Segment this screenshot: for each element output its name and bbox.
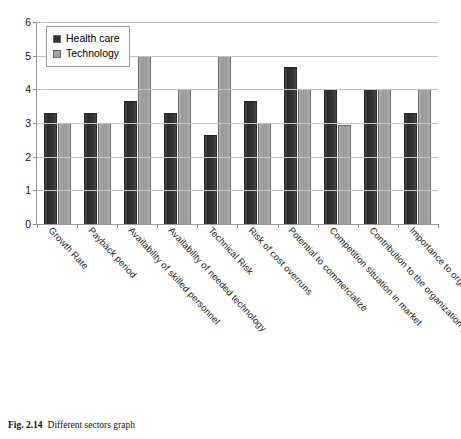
bar-technology [218, 56, 231, 224]
legend-swatch-health-care-icon [53, 35, 61, 43]
bar-health-care [404, 113, 417, 224]
chart-plot-wrapper: 0123456 Health care Technology [0, 0, 461, 240]
x-axis-label: Potential to commercialize [287, 226, 370, 314]
y-tick-mark [33, 89, 37, 90]
bar-health-care [124, 101, 137, 224]
y-tick-mark [33, 224, 37, 225]
bar-health-care [164, 113, 177, 224]
y-tick-label: 6 [25, 17, 31, 28]
figure-caption-text: Different sectors graph [48, 420, 135, 430]
bar-health-care [244, 101, 257, 224]
legend-label-technology: Technology [66, 48, 119, 59]
y-tick-mark [33, 56, 37, 57]
figure-number: Fig. 2.14 [8, 420, 43, 430]
bar-technology [338, 125, 351, 224]
y-gridline [37, 123, 438, 124]
bar-health-care [84, 113, 97, 224]
y-tick-label: 2 [25, 151, 31, 162]
bar-technology [138, 56, 151, 224]
x-axis-label: Contribution to the organization goal / … [367, 226, 461, 381]
bar-health-care [284, 67, 297, 224]
figure-caption: Fig. 2.14Different sectors graph [8, 420, 135, 430]
legend-label-health-care: Health care [66, 33, 120, 44]
y-tick-label: 0 [25, 219, 31, 230]
legend-swatch-technology-icon [53, 50, 61, 58]
y-tick-label: 5 [25, 50, 31, 61]
y-gridline [37, 157, 438, 158]
y-tick-mark [33, 22, 37, 23]
legend-item-health-care: Health care [53, 31, 120, 46]
bar-health-care [204, 135, 217, 224]
x-axis-category-labels: Growth RatePayback periodAvailability of… [36, 226, 437, 411]
legend-item-technology: Technology [53, 46, 120, 61]
x-axis-label: Growth Rate [46, 226, 89, 271]
x-tick-mark [438, 224, 439, 228]
bar-technology [58, 123, 71, 224]
y-gridline [37, 190, 438, 191]
y-tick-mark [33, 157, 37, 158]
y-tick-label: 1 [25, 185, 31, 196]
bar-health-care [44, 113, 57, 224]
figure-container: 0123456 Health care Technology Growth Ra… [0, 0, 461, 439]
y-gridline [37, 22, 438, 23]
y-tick-label: 3 [25, 118, 31, 129]
y-tick-mark [33, 123, 37, 124]
bar-technology [98, 123, 111, 224]
y-gridline [37, 89, 438, 90]
chart-legend: Health care Technology [46, 26, 130, 67]
y-tick-mark [33, 190, 37, 191]
y-tick-label: 4 [25, 84, 31, 95]
bar-technology [258, 123, 271, 224]
